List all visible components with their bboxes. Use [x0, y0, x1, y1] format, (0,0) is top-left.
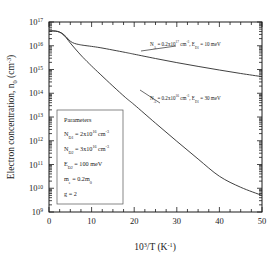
- y-axis-tick-labels: 10910101011101210131014101510161017: [29, 17, 43, 217]
- x-tick-label: 10: [87, 216, 96, 226]
- parameters-box-title: Parameters: [64, 116, 92, 123]
- y-axis-title: Electron concentration, n0 (cm-3): [5, 55, 17, 179]
- x-tick-label: 50: [258, 216, 267, 226]
- chart-svg: 01020304050 1091010101110121013101410151…: [0, 0, 274, 263]
- x-tick-label: 40: [215, 216, 224, 226]
- parameter-line: g = 2: [64, 190, 77, 197]
- chart-figure: 01020304050 1091010101110121013101410151…: [0, 0, 274, 263]
- x-tick-label: 0: [47, 216, 51, 226]
- x-tick-label: 30: [173, 216, 182, 226]
- x-tick-label: 20: [130, 216, 139, 226]
